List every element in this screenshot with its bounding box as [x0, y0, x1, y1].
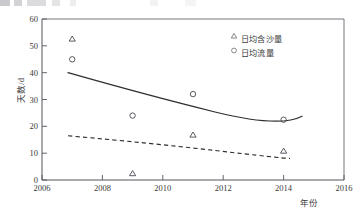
legend-markers [231, 33, 236, 52]
data-point-circle [130, 113, 135, 118]
x-tick-label: 2008 [94, 183, 111, 193]
x-tick-label: 2012 [215, 183, 232, 193]
triangle-marker-icon [231, 33, 236, 38]
trendline-solid-flow [68, 73, 302, 122]
chart-figure: 0 10 20 30 40 50 60 2006 2008 [0, 0, 360, 216]
y-tick-label: 40 [30, 68, 39, 78]
x-tick-label: 2006 [34, 183, 51, 193]
legend-item-sediment: 日均含沙量 [241, 32, 282, 44]
y-tick-label: 30 [30, 95, 39, 105]
data-point-circle [70, 57, 75, 62]
y-tick-label: 60 [30, 14, 39, 24]
chart-page: 0 10 20 30 40 50 60 2006 2008 [0, 0, 360, 216]
y-axis-title: 天数/d [17, 61, 26, 121]
data-point-triangle [130, 171, 136, 176]
x-tick-label: 2016 [336, 183, 353, 193]
data-point-triangle [281, 148, 287, 153]
y-tick-label: 50 [30, 41, 39, 51]
x-tick-label: 2014 [275, 183, 293, 193]
series-flow-points [70, 57, 287, 123]
data-point-triangle [69, 36, 75, 41]
trendline-dashed-sediment [68, 136, 290, 159]
y-axis-ticks [42, 19, 47, 180]
plot-frame [42, 19, 344, 180]
circle-marker-icon [232, 48, 237, 53]
data-point-circle [190, 91, 195, 96]
y-tick-label: 10 [30, 148, 39, 158]
x-tick-labels: 2006 2008 2010 2012 2014 2016 [34, 183, 353, 193]
legend-item-flow: 日均流量 [241, 46, 274, 58]
data-point-circle [281, 117, 286, 122]
data-point-triangle [190, 132, 196, 137]
y-tick-labels: 0 10 20 30 40 50 60 [30, 14, 39, 185]
y-tick-label: 20 [30, 121, 39, 131]
x-tick-label: 2010 [154, 183, 171, 193]
x-axis-ticks [42, 175, 344, 180]
chart-canvas: 0 10 20 30 40 50 60 2006 2008 [0, 0, 360, 216]
x-axis-title: 年份 [300, 196, 318, 208]
